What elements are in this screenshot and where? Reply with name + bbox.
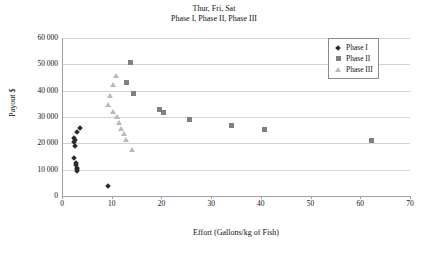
data-point-diamond (105, 183, 111, 189)
x-tick-mark (161, 196, 162, 199)
x-tick-label: 0 (47, 199, 77, 208)
y-tick-label: 60 000 (10, 33, 58, 42)
legend-item-phase-i: Phase I (333, 42, 373, 53)
x-tick-mark (62, 196, 63, 199)
legend-label: Phase II (346, 54, 370, 63)
x-tick-label: 10 (97, 199, 127, 208)
x-axis-line (62, 196, 410, 197)
x-tick-mark (211, 196, 212, 199)
data-point-square (187, 117, 192, 122)
legend-label: Phase III (346, 65, 373, 74)
data-point-triangle (123, 137, 129, 142)
x-tick-mark (410, 196, 411, 199)
data-point-square (124, 80, 129, 85)
chart-subtitle: Phase I, Phase II, Phase III (0, 14, 428, 24)
data-point-square (161, 110, 166, 115)
x-tick-mark (360, 196, 361, 199)
y-axis-line (62, 38, 63, 196)
data-point-square (128, 60, 133, 65)
y-tick-label: 50 000 (10, 59, 58, 68)
data-point-triangle (105, 102, 111, 107)
y-tick-label: 30 000 (10, 112, 58, 121)
chart-title: Thur, Fri, Sat (0, 4, 428, 14)
y-tick-label: 10 000 (10, 165, 58, 174)
data-point-triangle (129, 147, 135, 152)
y-tick-label: 40 000 (10, 86, 58, 95)
x-axis-title: Effort (Gallons/kg of Fish) (62, 228, 410, 237)
data-point-triangle (116, 120, 122, 125)
legend-item-phase-iii: Phase III (333, 64, 373, 75)
x-tick-label: 40 (246, 199, 276, 208)
scatter-chart: Thur, Fri, Sat Phase I, Phase II, Phase … (0, 0, 428, 263)
gridline (62, 170, 410, 171)
data-point-square (131, 91, 136, 96)
chart-legend: Phase I Phase II Phase III (328, 38, 379, 79)
x-tick-mark (311, 196, 312, 199)
x-tick-label: 20 (146, 199, 176, 208)
data-point-triangle (121, 131, 127, 136)
x-tick-label: 70 (395, 199, 425, 208)
data-point-square (262, 127, 267, 132)
y-tick-label: 20 000 (10, 138, 58, 147)
data-point-square (229, 123, 234, 128)
y-axis-tick-labels: 010 00020 00030 00040 00050 00060 000 (4, 0, 58, 263)
x-tick-label: 30 (196, 199, 226, 208)
diamond-marker-icon (333, 46, 343, 50)
x-tick-mark (112, 196, 113, 199)
x-tick-mark (261, 196, 262, 199)
data-point-triangle (107, 93, 113, 98)
data-point-square (369, 138, 374, 143)
chart-title-block: Thur, Fri, Sat Phase I, Phase II, Phase … (0, 4, 428, 24)
gridline (62, 91, 410, 92)
x-tick-label: 60 (345, 199, 375, 208)
square-marker-icon (333, 56, 343, 61)
data-point-triangle (110, 82, 116, 87)
triangle-marker-icon (333, 67, 343, 72)
data-point-triangle (114, 114, 120, 119)
data-point-triangle (113, 73, 119, 78)
legend-item-phase-ii: Phase II (333, 53, 373, 64)
legend-label: Phase I (346, 43, 368, 52)
gridline (62, 143, 410, 144)
x-tick-label: 50 (296, 199, 326, 208)
